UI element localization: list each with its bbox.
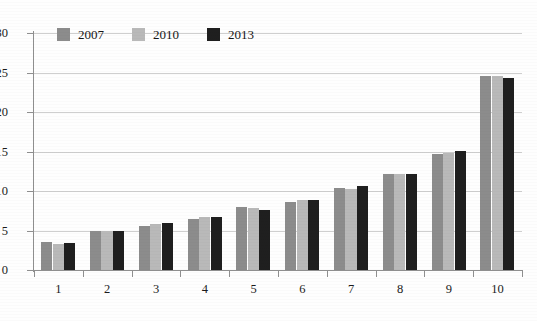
bar-chart: 051015202530 12345678910 2007 2010 2013 (0, 0, 537, 321)
bar (285, 202, 296, 270)
bar (492, 76, 503, 270)
y-axis-tick-mark (27, 112, 34, 113)
plot-area (34, 33, 522, 270)
bar (432, 154, 443, 270)
bar (345, 189, 356, 270)
x-axis-tick-mark (34, 270, 35, 277)
legend-swatch-2013 (207, 28, 220, 41)
x-axis-tick-label: 10 (478, 283, 518, 296)
x-axis-tick-mark (522, 270, 523, 277)
legend-swatch-2007 (57, 28, 70, 41)
legend-item: 2013 (207, 28, 254, 41)
bar (41, 242, 52, 270)
gridline (34, 73, 522, 74)
legend-item: 2007 (57, 28, 104, 41)
y-axis-tick-mark (27, 191, 34, 192)
bar (139, 226, 150, 270)
x-axis-tick-mark (83, 270, 84, 277)
x-axis-tick-label: 3 (136, 283, 176, 296)
x-axis-tick-label: 1 (38, 283, 78, 296)
y-axis-tick-mark (27, 270, 34, 271)
legend-label-2007: 2007 (78, 28, 104, 41)
bar (248, 208, 259, 270)
bar (297, 200, 308, 270)
y-axis-tick-mark (27, 73, 34, 74)
x-axis-tick-mark (278, 270, 279, 277)
bar (101, 231, 112, 271)
x-axis-tick-label: 4 (185, 283, 225, 296)
y-axis-tick-mark (27, 231, 34, 232)
x-axis-tick-mark (473, 270, 474, 277)
x-axis-tick-mark (229, 270, 230, 277)
bar (53, 244, 64, 270)
bar (259, 210, 270, 270)
bar (383, 174, 394, 270)
y-axis-tick-label: 20 (0, 106, 8, 119)
bar (443, 153, 454, 270)
bar (480, 76, 491, 270)
y-axis-tick-label: 5 (0, 225, 8, 238)
bar (162, 223, 173, 270)
bar (64, 243, 75, 270)
x-axis-tick-label: 6 (282, 283, 322, 296)
y-axis-tick-mark (27, 33, 34, 34)
y-axis-tick-label: 30 (0, 27, 8, 40)
bar (90, 231, 101, 271)
y-axis-tick-label: 25 (0, 67, 8, 80)
bar (503, 78, 514, 270)
y-axis-tick-label: 10 (0, 185, 8, 198)
x-axis-tick-mark (132, 270, 133, 277)
y-axis-tick-mark (27, 152, 34, 153)
bar (406, 174, 417, 270)
x-axis-tick-mark (376, 270, 377, 277)
legend-label-2013: 2013 (228, 28, 254, 41)
bar (334, 188, 345, 270)
x-axis-tick-label: 8 (380, 283, 420, 296)
chart-legend: 2007 2010 2013 (57, 28, 282, 41)
bar (211, 217, 222, 270)
legend-item: 2010 (132, 28, 179, 41)
legend-label-2010: 2010 (153, 28, 179, 41)
x-axis-tick-mark (424, 270, 425, 277)
bar (357, 186, 368, 270)
gridline (34, 112, 522, 113)
x-axis-tick-label: 2 (87, 283, 127, 296)
bar (150, 224, 161, 270)
bar (188, 219, 199, 270)
bar (455, 151, 466, 270)
bar (113, 231, 124, 271)
bar (236, 207, 247, 270)
bar (394, 174, 405, 270)
y-axis-tick-label: 15 (0, 146, 8, 159)
x-axis-tick-label: 5 (234, 283, 274, 296)
y-axis-tick-label: 0 (0, 264, 8, 277)
legend-swatch-2010 (132, 28, 145, 41)
x-axis-tick-mark (180, 270, 181, 277)
x-axis-tick-mark (327, 270, 328, 277)
bar (308, 200, 319, 270)
x-axis-tick-label: 9 (429, 283, 469, 296)
x-axis-tick-label: 7 (331, 283, 371, 296)
bar (199, 217, 210, 270)
